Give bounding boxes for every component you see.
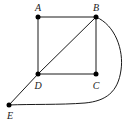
edge-b-d [38,17,96,74]
node-e [7,103,12,108]
label-b: B [93,2,99,13]
label-c: C [93,80,100,91]
node-a [36,15,41,20]
label-a: A [34,2,42,13]
graph-diagram: A B C D E [0,0,126,124]
node-d [36,72,41,77]
edge-b-e-curve [9,17,122,105]
label-d: D [33,80,42,91]
node-c [94,72,99,77]
label-e: E [6,110,13,121]
node-b [94,15,99,20]
